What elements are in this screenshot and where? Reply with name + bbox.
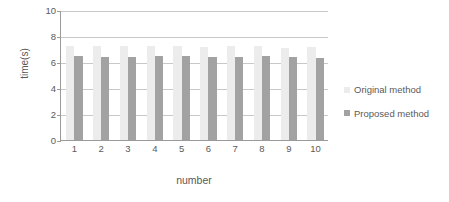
- x-axis-tick-label: 1: [62, 144, 86, 154]
- bar-chart: time(s) 0246810 12345678910 number Origi…: [0, 0, 449, 202]
- y-axis-tick-label: 4: [51, 84, 56, 94]
- y-axis-tick-label: 10: [45, 6, 56, 16]
- y-axis-tick-label: 2: [51, 110, 56, 120]
- x-axis-tick-label: 5: [170, 144, 194, 154]
- y-axis-tick-label: 6: [51, 58, 56, 68]
- bar-proposed-method: [182, 56, 190, 141]
- square-swatch-icon: [344, 110, 350, 116]
- x-axis-tick-label: 7: [223, 144, 247, 154]
- y-axis-tick-labels: 0246810: [30, 0, 56, 202]
- bars-series-proposed: [60, 11, 328, 141]
- y-axis-tick-label: 8: [51, 32, 56, 42]
- y-axis-tick-label: 0: [51, 136, 56, 146]
- bar-proposed-method: [316, 58, 324, 140]
- bar-proposed-method: [208, 57, 216, 140]
- plot-area: [60, 11, 328, 141]
- bar-proposed-method: [262, 56, 270, 140]
- y-axis-title: time(s): [19, 34, 30, 94]
- x-axis-tick-label: 3: [116, 144, 140, 154]
- bar-proposed-method: [101, 57, 109, 140]
- legend-item[interactable]: Original method: [344, 85, 449, 95]
- x-axis-tick-label: 9: [277, 144, 301, 154]
- legend-item-label: Proposed method: [354, 109, 429, 119]
- chart-legend: Original methodProposed method: [344, 85, 449, 132]
- legend-item-label: Original method: [354, 85, 421, 95]
- bar-proposed-method: [235, 57, 243, 140]
- bar-proposed-method: [128, 57, 136, 140]
- x-axis-title: number: [60, 174, 328, 186]
- y-axis-tick: [57, 141, 61, 142]
- bar-proposed-method: [74, 56, 82, 141]
- x-axis-tick-label: 4: [143, 144, 167, 154]
- square-swatch-icon: [344, 87, 350, 93]
- legend-item[interactable]: Proposed method: [344, 109, 449, 119]
- x-axis-tick-label: 10: [304, 144, 328, 154]
- x-axis-tick-label: 2: [89, 144, 113, 154]
- x-axis-tick-label: 6: [196, 144, 220, 154]
- x-axis-tick-labels: 12345678910: [60, 144, 328, 160]
- x-axis-tick-label: 8: [250, 144, 274, 154]
- bar-proposed-method: [289, 57, 297, 140]
- bar-proposed-method: [155, 56, 163, 141]
